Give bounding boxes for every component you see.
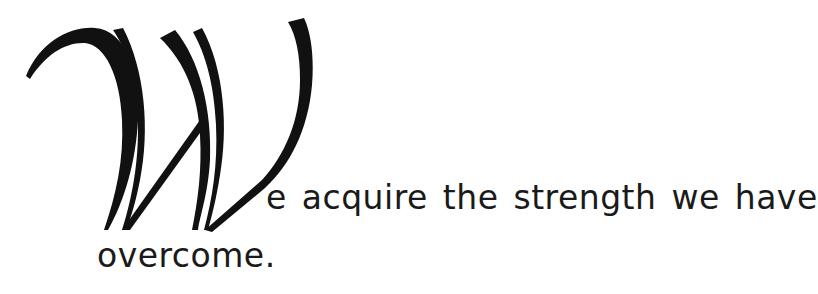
quote-line-2: overcome. bbox=[97, 236, 276, 275]
quote-line-1: e acquire the strength we have bbox=[266, 178, 818, 217]
